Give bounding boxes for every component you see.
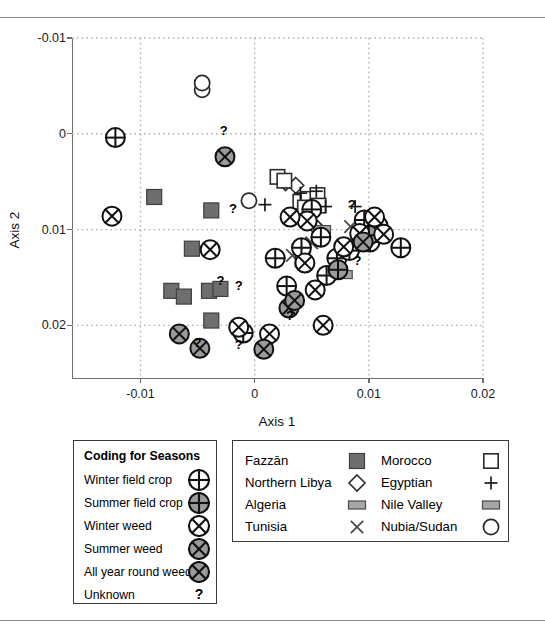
marker-plus	[485, 477, 498, 490]
regions-legend-label: Morocco	[381, 453, 432, 468]
seasons-legend-label: All year round weed	[84, 565, 192, 579]
seasons-legend-label: Unknown	[84, 588, 135, 602]
circle-cross-grey-icon	[188, 538, 210, 560]
bottom-divider	[0, 620, 545, 621]
seasons-legend-label: Winter field crop	[84, 473, 172, 487]
seasons-legend-label: Summer field crop	[84, 496, 183, 510]
top-divider	[0, 17, 545, 18]
seasons-legend-row: All year round weed	[84, 561, 212, 585]
seasons-legend-row: Winter field crop	[84, 469, 212, 493]
circle-cross-grey-icon	[188, 561, 210, 583]
regions-legend-label: Nubia/Sudan	[381, 519, 457, 534]
unknown-question-marker: ?	[235, 338, 243, 351]
seasons-legend-title: Coding for Seasons	[84, 449, 200, 463]
regions-legend-label: Fazzān	[245, 453, 288, 468]
seasons-legend-row: Unknown?	[84, 584, 212, 608]
open-circle-icon	[481, 517, 501, 537]
marker-circle-plus-white	[189, 470, 209, 490]
marker-cross-x	[351, 521, 363, 533]
regions-legend-label: Northern Libya	[245, 475, 332, 490]
seasons-legend-row: Winter weed	[84, 515, 212, 539]
filled-rectangle-icon	[481, 495, 501, 515]
marker-filled-square	[350, 454, 365, 469]
open-diamond-icon	[347, 473, 367, 493]
regions-legend: FazzānNorthern LibyaAlgeriaTunisiaMorocc…	[232, 440, 509, 542]
seasons-legend-label: Summer weed	[84, 542, 163, 556]
regions-legend-label: Algeria	[245, 497, 286, 512]
marker-filled-rectangle	[483, 501, 500, 509]
unknown-question-marker: ?	[286, 308, 294, 321]
marker-open-diamond	[349, 475, 365, 491]
seasons-legend: Coding for Seasons Winter field cropSumm…	[73, 440, 217, 604]
unknown-question-marker: ?	[229, 201, 237, 214]
regions-legend-label: Nile Valley	[381, 497, 442, 512]
regions-legend-label: Tunisia	[245, 519, 287, 534]
unknown-question-marker: ?	[216, 274, 224, 287]
circle-cross-white-icon	[188, 515, 210, 537]
unknown-question-marker: ?	[348, 197, 356, 210]
regions-legend-label: Egyptian	[381, 475, 432, 490]
unknown-question-marker: ?	[194, 335, 202, 348]
question-mark-icon: ?	[188, 584, 210, 606]
marker-open-square	[484, 454, 498, 468]
seasons-legend-row: Summer field crop	[84, 492, 212, 516]
seasons-legend-row: Summer weed	[84, 538, 212, 562]
open-square-icon	[481, 451, 501, 471]
plus-icon	[481, 473, 501, 493]
marker-circle-cross-grey	[189, 539, 209, 559]
unknown-markers: ?????????	[0, 20, 545, 420]
unknown-question-marker: ?	[353, 254, 361, 267]
circle-plus-white-icon	[188, 469, 210, 491]
marker-circle-plus-grey	[189, 493, 209, 513]
unknown-question-marker: ?	[235, 279, 243, 292]
marker-filled-rectangle	[349, 501, 366, 509]
seasons-legend-label: Winter weed	[84, 519, 152, 533]
cross-x-icon	[347, 517, 367, 537]
scatter-plot: -0.0100.010.020.020.010-0.01 Axis 1 Axis…	[0, 20, 545, 420]
filled-rectangle-icon	[347, 495, 367, 515]
marker-circle-cross-grey	[189, 562, 209, 582]
circle-plus-grey-icon	[188, 492, 210, 514]
marker-circle-cross-white	[189, 516, 209, 536]
marker-open-circle	[483, 519, 498, 534]
filled-square-icon	[347, 451, 367, 471]
unknown-question-marker: ?	[220, 123, 228, 136]
